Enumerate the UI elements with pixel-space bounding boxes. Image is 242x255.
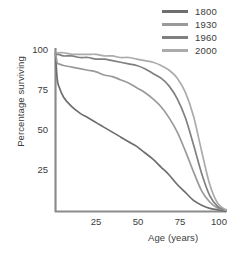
legend-item-1800: 1800 (162, 6, 240, 17)
legend-swatch-1800 (162, 10, 188, 13)
legend-label-2000: 2000 (195, 45, 217, 56)
legend-item-2000: 2000 (162, 45, 240, 56)
x-tick-label-100: 100 (207, 216, 231, 227)
series-line-1960 (56, 53, 227, 210)
x-tick-label-25: 25 (84, 216, 108, 227)
legend-item-1960: 1960 (162, 32, 240, 43)
legend-swatch-1960 (162, 36, 188, 39)
y-axis-title: Percentage surviving (15, 52, 26, 152)
y-tick-label-50: 50 (26, 124, 48, 135)
y-tick-label-100: 100 (26, 44, 48, 55)
x-tick-label-75: 75 (168, 216, 192, 227)
survivorship-curve-chart: Percentage surviving Age (years) 100 75 … (0, 0, 242, 255)
series-line-2000 (56, 53, 227, 210)
legend: 1800 1930 1960 2000 (162, 6, 240, 58)
x-tick-label-50: 50 (126, 216, 150, 227)
legend-label-1960: 1960 (195, 32, 217, 43)
x-axis-title: Age (years) (148, 232, 198, 243)
series-lines (56, 53, 227, 212)
y-tick-label-75: 75 (26, 84, 48, 95)
legend-swatch-1930 (162, 23, 188, 26)
legend-label-1930: 1930 (195, 19, 217, 30)
legend-swatch-2000 (162, 49, 188, 52)
legend-label-1800: 1800 (195, 6, 217, 17)
y-tick-label-25: 25 (26, 164, 48, 175)
series-line-1930 (56, 53, 227, 210)
legend-item-1930: 1930 (162, 19, 240, 30)
